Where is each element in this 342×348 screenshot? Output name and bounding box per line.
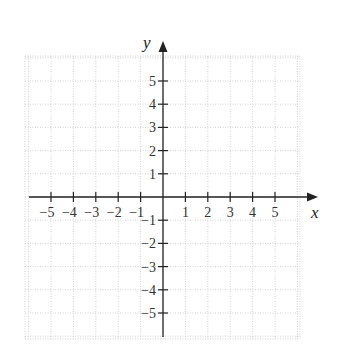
x-tick-label: 1 (182, 205, 189, 220)
x-tick-label: 4 (249, 205, 256, 220)
y-tick-label: 5 (149, 74, 156, 89)
y-tick-label: −5 (141, 306, 156, 321)
x-tick-label: −4 (62, 205, 77, 220)
x-tick-label: 5 (272, 205, 279, 220)
x-axis-label: x (310, 203, 319, 222)
x-axis-arrow-icon (307, 193, 318, 202)
y-axis-label: y (141, 33, 151, 52)
y-tick-label: 4 (149, 97, 156, 112)
x-tick-label: −3 (84, 205, 99, 220)
y-tick-label: 2 (149, 144, 156, 159)
coordinate-plane: −5−4−3−2−11234554321−1−2−3−4−5 x y (0, 0, 342, 348)
x-tick-label: 3 (227, 205, 234, 220)
y-tick-label: −1 (141, 213, 156, 228)
y-axis-arrow-icon (159, 41, 168, 52)
y-tick-label: −4 (141, 283, 156, 298)
x-tick-label: −2 (107, 205, 122, 220)
x-tick-label: 2 (204, 205, 211, 220)
y-tick-label: 1 (149, 167, 156, 182)
y-tick-label: 3 (149, 120, 156, 135)
x-tick-label: −5 (40, 205, 55, 220)
y-tick-label: −3 (141, 260, 156, 275)
y-tick-label: −2 (141, 236, 156, 251)
